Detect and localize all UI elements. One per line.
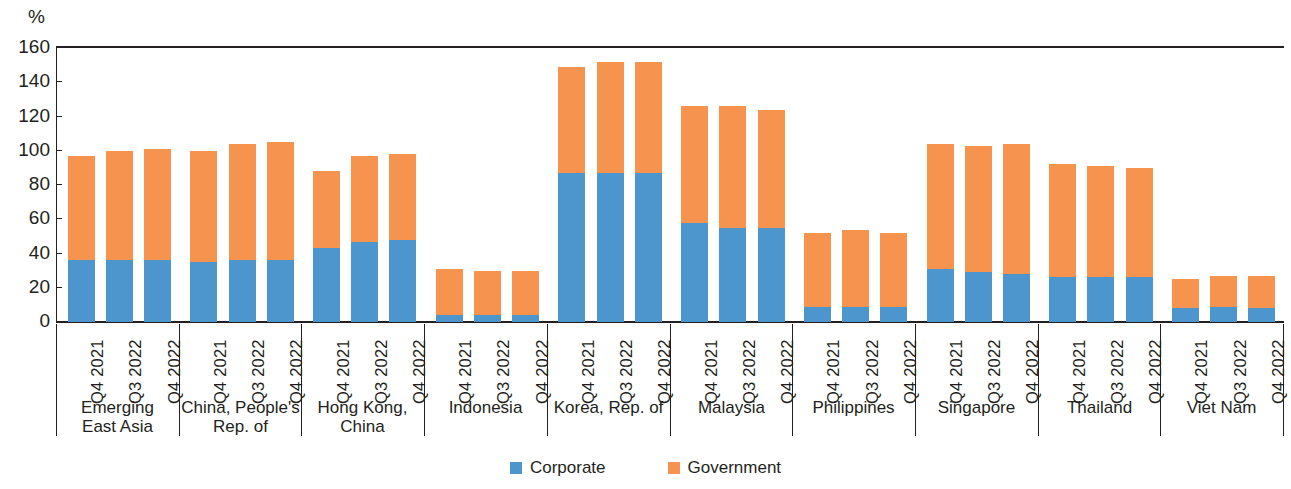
- quarter-label: Q3 2022: [250, 328, 267, 404]
- legend-item-government: Government: [668, 458, 782, 478]
- bar-hongkongchina-q42021: [313, 171, 340, 322]
- bar-segment-government: [681, 106, 708, 222]
- bar-segment-government: [1210, 276, 1237, 307]
- y-tick-label-40: 40: [4, 243, 50, 262]
- quarter-label: Q4 2021: [1071, 328, 1088, 404]
- bar-emergingeastasia-q32022: [106, 151, 133, 322]
- bar-indonesia-q42022: [512, 271, 539, 322]
- bar-segment-corporate: [106, 260, 133, 322]
- quarter-label: Q4 2022: [902, 328, 919, 404]
- bar-segment-government: [512, 271, 539, 316]
- bar-singapore-q42021: [927, 144, 954, 322]
- bar-segment-corporate: [512, 315, 539, 322]
- bar-segment-government: [719, 106, 746, 228]
- bar-indonesia-q42021: [436, 269, 463, 322]
- bar-segment-government: [558, 67, 585, 173]
- quarter-label: Q4 2022: [656, 328, 673, 404]
- bar-philippines-q42022: [880, 233, 907, 322]
- category-label: China, People's Rep. of: [179, 398, 302, 436]
- bar-segment-corporate: [389, 240, 416, 322]
- y-tick-label-100: 100: [4, 140, 50, 159]
- bar-segment-corporate: [758, 228, 785, 322]
- bar-segment-government: [842, 230, 869, 307]
- bar-indonesia-q32022: [474, 271, 501, 322]
- category-label: Thailand: [1038, 398, 1161, 417]
- bar-segment-government: [351, 156, 378, 242]
- quarter-label: Q3 2022: [127, 328, 144, 404]
- quarter-label: Q3 2022: [986, 328, 1003, 404]
- bar-vietnam-q32022: [1210, 276, 1237, 322]
- bar-segment-corporate: [927, 269, 954, 322]
- bar-philippines-q32022: [842, 230, 869, 322]
- bar-segment-government: [804, 233, 831, 307]
- bar-segment-government: [267, 142, 294, 260]
- legend-label-corporate: Corporate: [530, 458, 606, 478]
- bar-segment-corporate: [144, 260, 171, 322]
- bar-korearepof-q42022: [635, 62, 662, 322]
- bar-malaysia-q32022: [719, 106, 746, 322]
- bar-emergingeastasia-q42021: [68, 156, 95, 322]
- bar-segment-corporate: [558, 173, 585, 322]
- bar-segment-corporate: [1248, 308, 1275, 322]
- quarter-label: Q3 2022: [741, 328, 758, 404]
- quarter-label: Q4 2021: [335, 328, 352, 404]
- quarter-label: Q4 2021: [1193, 328, 1210, 404]
- bar-chinapeoplesrepof-q32022: [229, 144, 256, 322]
- y-tick-label-80: 80: [4, 174, 50, 193]
- bar-segment-corporate: [1126, 277, 1153, 322]
- category-label: Korea, Rep. of: [547, 398, 670, 417]
- bar-segment-corporate: [436, 315, 463, 322]
- quarter-label: Q4 2021: [580, 328, 597, 404]
- category-label: Malaysia: [670, 398, 793, 417]
- bar-segment-corporate: [1049, 277, 1076, 322]
- bar-chinapeoplesrepof-q42022: [267, 142, 294, 322]
- bar-segment-corporate: [681, 223, 708, 322]
- bar-vietnam-q42021: [1172, 279, 1199, 322]
- bar-segment-government: [597, 62, 624, 173]
- bar-hongkongchina-q42022: [389, 154, 416, 322]
- quarter-label: Q3 2022: [864, 328, 881, 404]
- bar-singapore-q42022: [1003, 144, 1030, 322]
- bar-segment-government: [1003, 144, 1030, 274]
- bar-segment-corporate: [1210, 307, 1237, 322]
- bar-segment-corporate: [267, 260, 294, 322]
- bar-segment-government: [635, 62, 662, 173]
- bar-segment-government: [474, 271, 501, 316]
- y-tick-label-160: 160: [4, 37, 50, 56]
- quarter-label: Q3 2022: [1232, 328, 1249, 404]
- bar-segment-government: [1172, 279, 1199, 308]
- bar-segment-government: [68, 156, 95, 260]
- bar-chinapeoplesrepof-q42021: [190, 151, 217, 322]
- bar-segment-government: [436, 269, 463, 315]
- bar-segment-government: [927, 144, 954, 269]
- category-label: Hong Kong, China: [301, 398, 424, 436]
- bar-segment-corporate: [1087, 277, 1114, 322]
- y-tick-label-120: 120: [4, 106, 50, 125]
- legend-swatch-government-icon: [668, 462, 680, 474]
- bar-segment-government: [190, 151, 217, 262]
- bar-segment-government: [144, 149, 171, 260]
- quarter-label: Q4 2022: [779, 328, 796, 404]
- y-tick-label-140: 140: [4, 71, 50, 90]
- category-label: Viet Nam: [1160, 398, 1283, 417]
- bar-thailand-q42021: [1049, 164, 1076, 322]
- quarter-label: Q4 2022: [411, 328, 428, 404]
- quarter-label: Q4 2021: [457, 328, 474, 404]
- bar-korearepof-q32022: [597, 62, 624, 322]
- legend-swatch-corporate-icon: [510, 462, 522, 474]
- category-label: Emerging East Asia: [56, 398, 179, 436]
- bar-korearepof-q42021: [558, 67, 585, 322]
- bar-thailand-q32022: [1087, 166, 1114, 322]
- chart-legend: Corporate Government: [0, 458, 1291, 478]
- bar-segment-government: [965, 146, 992, 273]
- quarter-label: Q3 2022: [495, 328, 512, 404]
- legend-item-corporate: Corporate: [510, 458, 606, 478]
- bar-malaysia-q42021: [681, 106, 708, 322]
- bar-segment-government: [1087, 166, 1114, 277]
- bar-hongkongchina-q32022: [351, 156, 378, 322]
- y-tick-label-0: 0: [4, 311, 50, 330]
- bar-segment-government: [1248, 276, 1275, 309]
- bar-singapore-q32022: [965, 146, 992, 322]
- bar-segment-corporate: [474, 315, 501, 322]
- bar-segment-corporate: [880, 307, 907, 322]
